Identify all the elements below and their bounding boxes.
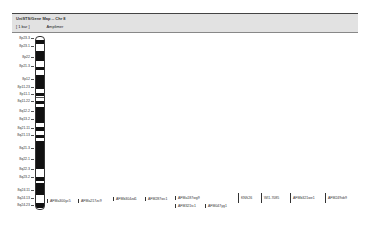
band-label[interactable]: 8q22.1 — [19, 157, 34, 161]
marker-item[interactable]: AFMa187wg9 — [175, 196, 200, 200]
band-label[interactable]: 8p11.23 — [18, 85, 34, 89]
band-label[interactable]: 8p22 — [22, 55, 34, 59]
band-label[interactable]: 8q13.2 — [19, 117, 34, 121]
dark-band — [36, 101, 44, 104]
band-label[interactable]: 8q11.22 — [18, 99, 34, 103]
marker-tick — [261, 193, 262, 203]
centromere — [36, 97, 44, 98]
map-header: UniSTS/Gene Map -- Chr 8 [ 1 bar ] Ampli… — [12, 13, 358, 33]
marker-tick — [47, 199, 48, 203]
marker-tick — [325, 193, 326, 203]
marker-label: AFMa217zc9 — [81, 199, 102, 203]
marker-item[interactable]: AFMa217zc9 — [78, 199, 102, 203]
chromosome-ideogram[interactable] — [35, 36, 45, 210]
marker-item[interactable]: AFMa300yc5 — [47, 199, 71, 203]
marker-tick — [78, 199, 79, 203]
dark-band — [36, 141, 44, 169]
marker-label: AFM249xb9 — [328, 196, 347, 200]
dark-band — [36, 183, 44, 195]
marker-tick — [238, 193, 239, 203]
header-subrow: [ 1 bar ] Amplimer — [16, 24, 79, 29]
marker-tick — [205, 204, 206, 208]
marker-item[interactable]: AFMb321we1 — [290, 193, 315, 203]
band-label[interactable]: 8q24.11 — [18, 188, 34, 192]
band-label[interactable]: 8p12 — [22, 77, 34, 81]
track-label: Amplimer — [46, 24, 63, 29]
marker-tick — [145, 197, 146, 201]
marker-tick — [175, 204, 176, 208]
dark-band — [36, 107, 44, 123]
marker-item[interactable]: AFM047yg1 — [205, 204, 227, 208]
dark-band — [36, 203, 44, 208]
dark-band — [36, 75, 44, 89]
marker-label: AFMb321we1 — [293, 196, 315, 200]
band-label[interactable]: 8q21.11 — [18, 126, 34, 130]
marker-label: AFM047yg1 — [208, 204, 227, 208]
band-label[interactable]: 8q24.23 — [17, 203, 34, 207]
marker-tick — [113, 197, 114, 201]
scale-label[interactable]: [ 1 bar ] — [16, 24, 30, 29]
marker-label: AFMa187wg9 — [178, 196, 200, 200]
dark-band — [36, 93, 44, 96]
marker-item[interactable]: AFM321tc1 — [175, 204, 196, 208]
marker-item[interactable]: WI1-7085 — [261, 193, 279, 203]
dark-band — [36, 127, 44, 131]
band-label[interactable]: 8q22.3 — [19, 167, 34, 171]
dark-band — [36, 135, 44, 138]
band-label[interactable]: 8q12.2 — [19, 109, 34, 113]
band-label[interactable]: 8q21.3 — [19, 146, 34, 150]
marker-label: AFM287wc1 — [148, 197, 167, 201]
marker-tick — [175, 196, 176, 200]
marker-item[interactable]: AFM249xb9 — [325, 193, 347, 203]
marker-item[interactable]: AFM287wc1 — [145, 197, 167, 201]
band-label[interactable]: 8p11.1 — [20, 92, 34, 96]
dark-band — [36, 67, 44, 70]
map-title: UniSTS/Gene Map -- Chr 8 — [16, 16, 66, 21]
dark-band — [36, 40, 44, 44]
band-label[interactable]: 8p23.1 — [19, 44, 34, 48]
band-label[interactable]: 8q23.2 — [19, 175, 34, 179]
band-label[interactable]: 8q21.13 — [17, 133, 34, 137]
dark-band — [36, 177, 44, 181]
band-label[interactable]: 8p21.3 — [19, 64, 34, 68]
marker-label: KNS26 — [241, 196, 252, 200]
marker-tick — [290, 193, 291, 203]
marker-label: WI1-7085 — [264, 196, 279, 200]
marker-label: AFM321tc1 — [178, 204, 196, 208]
band-label[interactable]: 8p23.3 — [19, 36, 34, 40]
marker-item[interactable]: KNS26 — [238, 193, 252, 203]
marker-item[interactable]: AFMb304zd1 — [113, 197, 137, 201]
marker-label: AFMb304zd1 — [116, 197, 137, 201]
marker-label: AFMa300yc5 — [50, 199, 71, 203]
dark-band — [36, 51, 44, 61]
band-label[interactable]: 8q24.13 — [17, 196, 34, 200]
